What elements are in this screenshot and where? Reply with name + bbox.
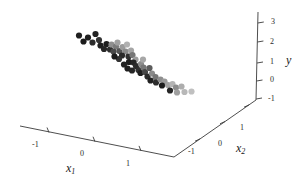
axis-title-x1: x1 <box>66 162 75 174</box>
data-point <box>129 67 135 73</box>
tick-label-y-1: 0 <box>270 76 274 84</box>
axis-title-y: y <box>286 54 291 66</box>
scatter-plot-figure: -1 0 1 -1 0 1 -1 0 1 2 3 x1 x2 y <box>0 0 306 182</box>
tick-label-x2-0: -1 <box>188 148 195 156</box>
tick-label-x2-2: 1 <box>240 124 244 132</box>
tick-label-x2-1: 0 <box>218 140 222 148</box>
axis-title-x2-sub: 2 <box>241 147 245 156</box>
data-point <box>89 39 95 45</box>
data-point <box>147 77 153 83</box>
data-point <box>159 82 165 88</box>
axis-line-y <box>256 12 258 100</box>
data-point <box>188 88 194 94</box>
data-point <box>114 39 120 45</box>
data-point <box>124 41 130 47</box>
axis-title-x1-sub: 1 <box>71 167 75 176</box>
plot-canvas <box>0 0 306 182</box>
data-point <box>92 31 98 37</box>
tick-label-x1-0: -1 <box>32 141 39 149</box>
data-point <box>80 38 86 44</box>
data-point <box>101 46 107 52</box>
tick-label-x1-1: 0 <box>80 150 84 158</box>
data-points-group <box>76 31 195 96</box>
data-point <box>140 56 146 62</box>
axis-title-x2: x2 <box>236 142 245 154</box>
data-point <box>146 65 152 71</box>
data-point <box>181 89 187 95</box>
tick-label-y-4: 3 <box>271 18 275 26</box>
data-point <box>96 37 102 43</box>
axes-group <box>20 12 264 157</box>
data-point <box>174 89 180 95</box>
data-point <box>111 53 117 59</box>
tick-label-y-0: -1 <box>268 95 275 103</box>
data-point <box>167 87 173 93</box>
tick-label-y-3: 2 <box>270 38 274 46</box>
axis-title-y-base: y <box>286 53 291 67</box>
tick-label-x1-2: 1 <box>126 160 130 168</box>
axis-line-x1 <box>20 126 174 157</box>
tick-label-y-2: 1 <box>270 58 274 66</box>
data-point <box>76 32 82 38</box>
data-point <box>178 83 184 89</box>
